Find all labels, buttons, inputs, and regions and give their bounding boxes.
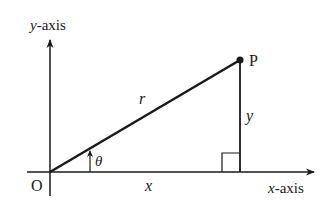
point-p-dot (237, 57, 244, 64)
angle-theta-label: θ (95, 153, 103, 169)
origin-label: O (31, 177, 43, 194)
radius-line (50, 60, 240, 172)
right-angle-marker (222, 153, 240, 172)
opposite-y-label: y (244, 107, 254, 125)
hypotenuse-r-label: r (139, 90, 146, 107)
y-axis-label: y-axis (28, 17, 66, 33)
polar-coordinate-diagram: y-axis x-axis O P r x y θ (0, 0, 331, 215)
adjacent-x-label: x (144, 177, 152, 194)
point-p-label: P (249, 52, 258, 69)
x-axis-label: x-axis (267, 180, 304, 196)
